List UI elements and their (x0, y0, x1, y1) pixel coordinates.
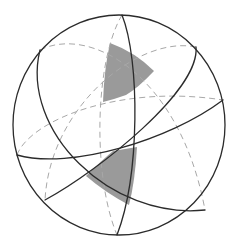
upper-shaded-triangle (103, 43, 154, 102)
gc-horizontal-back-arc (17, 96, 223, 155)
sphere-diagram (0, 0, 238, 248)
sphere-figure: Spherical triangles on a sphere formed b… (0, 0, 238, 248)
